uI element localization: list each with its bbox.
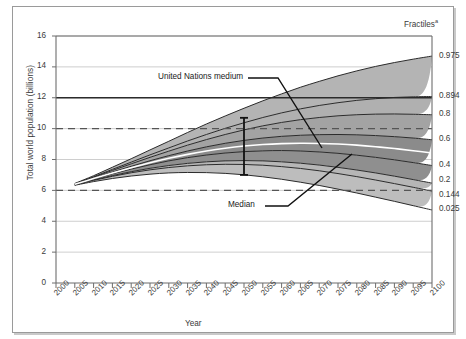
y-tick-label-0: 0 [24,278,46,287]
united-nations-medium-annotation: United Nations medium [158,72,243,81]
fractile-label-0025: 0.025 [439,204,460,213]
fractile-label-02: 0.2 [439,175,450,184]
y-tick-label-2: 2 [24,247,46,256]
fractile-label-04: 0.4 [439,160,450,169]
figure-container: Total world population (billions) Year F… [0,0,466,339]
y-tick-label-12: 12 [24,92,46,101]
fractile-label-08: 0.8 [439,109,450,118]
x-axis-title: Year [185,319,202,328]
fractile-label-0975: 0.975 [439,51,460,60]
fractiles-axis-title-text: Fractiles [404,20,435,29]
fractile-label-0894: 0.894 [439,91,460,100]
fractiles-axis-title: Fractilesa [404,18,438,29]
y-tick-label-6: 6 [24,185,46,194]
y-tick-label-4: 4 [24,216,46,225]
fractile-label-0144: 0.144 [439,190,460,199]
y-tick-label-16: 16 [24,31,46,40]
fractiles-footnote-marker: a [435,18,438,24]
y-tick-label-14: 14 [24,61,46,70]
y-tick-label-10: 10 [24,123,46,132]
fractile-label-06: 0.6 [439,134,450,143]
y-tick-label-8: 8 [24,154,46,163]
median-annotation: Median [228,200,255,209]
